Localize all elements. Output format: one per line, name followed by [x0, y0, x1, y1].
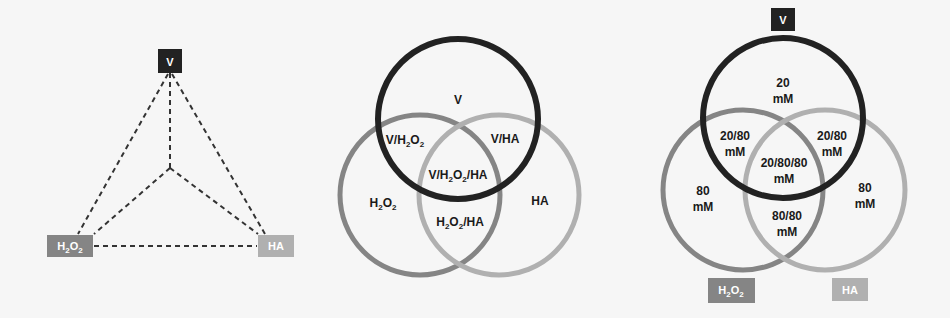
- figure-canvas: V H2O2 HA V V/H2O2 V/HA V/H2O2/HA H2O2 H…: [0, 0, 950, 318]
- region-v: V: [454, 93, 462, 107]
- region-v-h2o2-ha: V/H2O2/HA: [429, 168, 488, 184]
- conc-region-v-h2o2-ha: 20/80/80 mM: [761, 156, 808, 186]
- conc-region-v-ha: 20/80 mM: [817, 129, 847, 159]
- svg-text:80/80: 80/80: [772, 209, 802, 223]
- venn-concentrations: V H2O2 HA 20 mM 20/80 mM 20/80 mM 20/80/…: [663, 8, 905, 303]
- region-h2o2-ha: H2O2/HA: [436, 215, 484, 231]
- svg-text:20/80/80: 20/80/80: [761, 156, 808, 170]
- conc-region-h2o2: 80 mM: [693, 184, 714, 214]
- conc-box-ha: HA: [832, 278, 868, 301]
- conc-box-v: V: [771, 8, 795, 31]
- node-v: V: [158, 49, 182, 73]
- svg-text:mM: mM: [822, 145, 843, 159]
- node-v-label: V: [166, 56, 174, 68]
- svg-text:80: 80: [858, 181, 872, 195]
- conc-region-v-h2o2: 20/80 mM: [720, 129, 750, 159]
- svg-text:mM: mM: [855, 197, 876, 211]
- svg-text:20/80: 20/80: [720, 129, 750, 143]
- conc-region-v: 20 mM: [773, 76, 794, 106]
- svg-text:80: 80: [696, 184, 710, 198]
- conc-region-ha: 80 mM: [855, 181, 876, 211]
- conc-box-ha-label: HA: [842, 284, 858, 296]
- dash-v-ha: [172, 74, 265, 234]
- region-ha: HA: [531, 194, 549, 208]
- conc-region-h2o2-ha: 80/80 mM: [772, 209, 802, 239]
- svg-text:mM: mM: [777, 225, 798, 239]
- svg-text:20: 20: [776, 76, 790, 90]
- svg-text:mM: mM: [773, 92, 794, 106]
- svg-text:mM: mM: [774, 172, 795, 186]
- triangle-diagram: V H2O2 HA: [47, 49, 294, 257]
- conc-box-h2o2: H2O2: [708, 278, 755, 303]
- region-v-h2o2: V/H2O2: [386, 133, 425, 149]
- conc-box-v-label: V: [779, 14, 787, 26]
- svg-text:mM: mM: [725, 145, 746, 159]
- svg-text:mM: mM: [693, 200, 714, 214]
- dash-center-h2o2: [94, 168, 170, 234]
- region-v-ha: V/HA: [491, 132, 520, 146]
- node-ha: HA: [258, 235, 294, 257]
- region-h2o2: H2O2: [370, 196, 397, 212]
- node-ha-label: HA: [268, 240, 284, 252]
- venn-combinations: V V/H2O2 V/HA V/H2O2/HA H2O2 H2O2/HA HA: [340, 39, 579, 275]
- node-h2o2: H2O2: [47, 235, 93, 257]
- svg-text:20/80: 20/80: [817, 129, 847, 143]
